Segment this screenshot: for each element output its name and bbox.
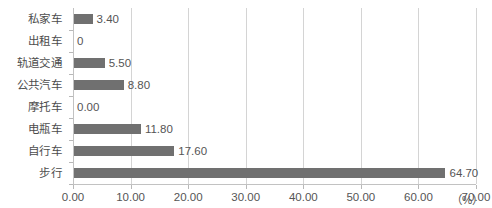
x-axis-tick (73, 185, 74, 189)
bar-value-label: 11.80 (145, 118, 173, 140)
bar-row: 11.80 (73, 118, 476, 140)
x-axis-tick (303, 185, 304, 189)
x-axis-unit-label: （%） (451, 191, 483, 207)
bar-value-label: 5.50 (109, 52, 131, 74)
bar-row: 17.60 (73, 140, 476, 162)
category-label: 私家车 (28, 8, 62, 30)
category-axis-labels: 私家车出租车轨道交通公共汽车摩托车电瓶车自行车步行 (0, 8, 68, 184)
category-label: 步行 (39, 162, 62, 184)
x-axis-tick-label: 10.00 (116, 191, 145, 203)
category-label: 自行车 (28, 140, 62, 162)
x-axis-tick-labels: 0.0010.0020.0030.0040.0050.0060.0070.00 (0, 185, 492, 208)
bar-value-label: 3.40 (97, 8, 119, 30)
x-axis-tick (188, 185, 189, 189)
gridline (476, 8, 477, 184)
x-axis-tick (131, 185, 132, 189)
bar-row: 0.00 (73, 96, 476, 118)
x-axis-tick-label: 50.00 (346, 191, 375, 203)
x-axis-tick (246, 185, 247, 189)
plot-area: 3.4005.508.800.0011.8017.6064.70 (73, 8, 476, 184)
bar-row: 64.70 (73, 162, 476, 184)
bar-value-label: 0 (77, 30, 83, 52)
x-axis-tick-label: 20.00 (174, 191, 203, 203)
bar (73, 58, 105, 68)
bar-row: 8.80 (73, 74, 476, 96)
bar-row: 0 (73, 30, 476, 52)
bar (73, 124, 141, 134)
bar-row: 3.40 (73, 8, 476, 30)
y-axis-line (73, 8, 74, 185)
category-label: 轨道交通 (17, 52, 62, 74)
bar-value-label: 64.70 (449, 162, 478, 184)
bar-value-label: 0.00 (77, 96, 99, 118)
horizontal-bar-chart: 私家车出租车轨道交通公共汽车摩托车电瓶车自行车步行 3.4005.508.800… (0, 0, 492, 208)
category-label: 公共汽车 (17, 74, 62, 96)
bar (73, 14, 93, 24)
x-axis-tick-label: 60.00 (404, 191, 433, 203)
x-axis-tick-label: 40.00 (289, 191, 318, 203)
bar (73, 168, 445, 178)
x-axis-tick-label: 30.00 (231, 191, 260, 203)
category-label: 电瓶车 (28, 118, 62, 140)
x-axis-tick (418, 185, 419, 189)
x-axis-tick-label: 0.00 (62, 191, 84, 203)
x-axis-tick (476, 185, 477, 189)
x-axis-tick (361, 185, 362, 189)
bar-value-label: 8.80 (128, 74, 150, 96)
category-label: 出租车 (28, 30, 62, 52)
bar-value-label: 17.60 (178, 140, 207, 162)
bar (73, 146, 174, 156)
bar-row: 5.50 (73, 52, 476, 74)
bar (73, 80, 124, 90)
category-label: 摩托车 (28, 96, 62, 118)
